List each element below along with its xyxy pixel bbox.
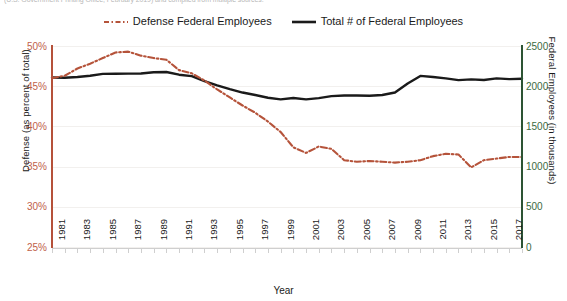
line-defense-federal-employees <box>52 52 522 168</box>
x-tick-1995 <box>230 249 231 253</box>
x-label-2007: 2007 <box>386 219 397 253</box>
x-tick-1985 <box>103 249 104 253</box>
x-tick-2009 <box>408 249 409 253</box>
x-tick-2001 <box>306 249 307 253</box>
y-right-tick-2500: 2500 <box>526 41 548 52</box>
x-tick-1991 <box>179 249 180 253</box>
line-total-federal-employees <box>52 72 522 99</box>
x-tick-1987 <box>128 249 129 253</box>
x-label-2003: 2003 <box>335 219 346 253</box>
x-label-1989: 1989 <box>158 219 169 253</box>
x-label-2009: 2009 <box>412 219 423 253</box>
x-label-1991: 1991 <box>183 219 194 253</box>
x-axis-title: Year <box>0 285 567 296</box>
legend-solid-swatch-icon <box>292 18 316 26</box>
x-tick-1983 <box>77 249 78 253</box>
y-left-tick-25: 25% <box>27 242 47 253</box>
x-label-1995: 1995 <box>234 219 245 253</box>
x-tick-2005 <box>357 249 358 253</box>
chart-legend: Defense Federal Employees Total # of Fed… <box>0 16 567 27</box>
x-tick-2007 <box>382 249 383 253</box>
legend-label-total: Total # of Federal Employees <box>321 16 463 27</box>
x-tick-1989 <box>154 249 155 253</box>
y-right-tick-0: 0 <box>526 242 532 253</box>
y-axis-right-line <box>521 45 523 248</box>
x-tick-2015 <box>484 249 485 253</box>
x-label-1993: 1993 <box>208 219 219 253</box>
y-right-tick-500: 500 <box>526 201 543 212</box>
x-label-2015: 2015 <box>488 219 499 253</box>
x-label-1983: 1983 <box>81 219 92 253</box>
x-label-1999: 1999 <box>285 219 296 253</box>
x-tick-1981 <box>52 249 53 253</box>
x-tick-1997 <box>255 249 256 253</box>
plot-area <box>52 46 522 247</box>
x-label-1985: 1985 <box>107 219 118 253</box>
legend-label-defense: Defense Federal Employees <box>133 16 272 27</box>
y-right-tick-1000: 1000 <box>526 161 548 172</box>
x-label-2013: 2013 <box>462 219 473 253</box>
x-label-1981: 1981 <box>56 219 67 253</box>
y-axis-right-labels: 2500 2000 1500 1000 500 0 <box>526 0 566 301</box>
legend-item-defense-federal-employees[interactable]: Defense Federal Employees <box>104 16 272 27</box>
y-right-tick-2000: 2000 <box>526 81 548 92</box>
y-axis-right-title: Federal Employees (in thousands) <box>547 28 558 193</box>
x-label-2001: 2001 <box>310 219 321 253</box>
x-label-2005: 2005 <box>361 219 372 253</box>
y-axis-left-title: Defense (as percent of total) <box>20 36 31 186</box>
legend-item-total-federal-employees[interactable]: Total # of Federal Employees <box>292 16 463 27</box>
x-tick-2013 <box>458 249 459 253</box>
x-tick-2017 <box>509 249 510 253</box>
y-right-tick-1500: 1500 <box>526 121 548 132</box>
x-label-1987: 1987 <box>132 219 143 253</box>
x-label-2011: 2011 <box>437 219 448 253</box>
y-axis-left-line <box>51 45 53 248</box>
x-tick-2011 <box>433 249 434 253</box>
x-label-2017: 2017 <box>513 219 524 253</box>
x-tick-1999 <box>281 249 282 253</box>
x-tick-1993 <box>204 249 205 253</box>
cropped-source-caption: (U.S. Government Printing Office, Februa… <box>4 0 544 5</box>
x-label-1997: 1997 <box>259 219 270 253</box>
y-left-tick-30: 30% <box>27 201 47 212</box>
chart-container: (U.S. Government Printing Office, Februa… <box>0 0 567 301</box>
legend-dash-dot-swatch-icon <box>104 18 128 26</box>
series-lines <box>52 46 522 247</box>
x-tick-2003 <box>331 249 332 253</box>
